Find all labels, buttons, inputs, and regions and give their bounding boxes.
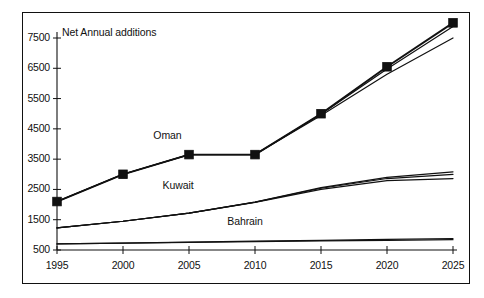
series-label-bahrain: Bahrain (227, 215, 263, 227)
x-tick-label: 1995 (34, 259, 80, 271)
chart-plot-area (0, 0, 484, 298)
chart-series-lines (57, 23, 453, 244)
chart-title: Net Annual additions (62, 26, 156, 38)
y-tick-label: 5500 (10, 92, 50, 104)
x-tick-label: 2015 (298, 259, 344, 271)
x-tick-label: 2025 (430, 259, 476, 271)
series-label-kuwait: Kuwait (163, 179, 194, 191)
y-tick-label: 500 (10, 243, 50, 255)
chart-figure: Net Annual additions 7500650055004500350… (0, 0, 484, 298)
y-tick-label: 6500 (10, 61, 50, 73)
x-tick-label: 2005 (166, 259, 212, 271)
x-tick-label: 2000 (100, 259, 146, 271)
y-tick-label: 4500 (10, 122, 50, 134)
y-tick-label: 1500 (10, 213, 50, 225)
y-tick-label: 2500 (10, 182, 50, 194)
series-label-oman: Oman (153, 129, 181, 141)
y-tick-label: 7500 (10, 31, 50, 43)
x-tick-label: 2020 (364, 259, 410, 271)
x-tick-label: 2010 (232, 259, 278, 271)
y-tick-label: 3500 (10, 152, 50, 164)
